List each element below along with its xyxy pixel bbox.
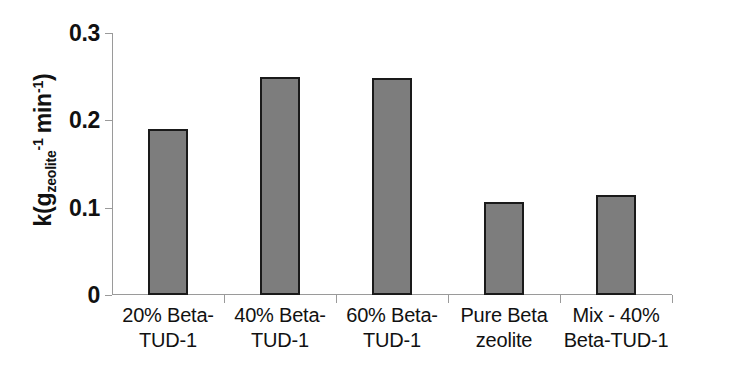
y-axis-tick-label: 0.1 xyxy=(69,194,100,221)
x-axis-category-label-line: 20% Beta- xyxy=(112,303,224,328)
x-axis-category-label: 40% Beta-TUD-1 xyxy=(224,303,336,375)
x-axis-category-label: Mix - 40%Beta-TUD-1 xyxy=(560,303,672,375)
bar xyxy=(148,129,188,295)
y-axis-tick xyxy=(105,33,112,34)
bar xyxy=(596,195,636,295)
y-axis-title-mid: min xyxy=(30,93,56,133)
y-axis-tick xyxy=(105,120,112,121)
x-axis-category-label-line: Pure Beta xyxy=(448,303,560,328)
y-axis-title-superscript-1: -1 xyxy=(30,138,46,150)
x-axis-category-label-line: 40% Beta- xyxy=(224,303,336,328)
bar xyxy=(372,78,412,295)
y-axis-line xyxy=(112,33,113,295)
x-axis-tick xyxy=(448,295,449,303)
y-axis-title-lead: k(g xyxy=(30,193,56,227)
x-axis-tick xyxy=(672,295,673,303)
y-axis-title-superscript-2: -1 xyxy=(30,81,46,93)
y-axis-title-subscript: zeolite xyxy=(42,150,58,192)
plot-area: 00.10.20.3 xyxy=(112,33,672,295)
x-axis-category-label: 20% Beta-TUD-1 xyxy=(112,303,224,375)
x-axis-tick xyxy=(224,295,225,303)
x-axis-category-label-line: Beta-TUD-1 xyxy=(560,328,672,353)
x-axis-category-label-line: 60% Beta- xyxy=(336,303,448,328)
y-axis-tick-label: 0 xyxy=(88,282,101,309)
y-axis-title-tail: ) xyxy=(30,74,56,81)
x-axis-category-label: Pure Betazeolite xyxy=(448,303,560,375)
y-axis-title: k(gzeolite-1min-1) xyxy=(22,0,66,300)
y-axis-tick xyxy=(105,295,112,296)
y-axis-title-text: k(gzeolite-1min-1) xyxy=(30,74,59,227)
bar-chart-figure: k(gzeolite-1min-1) 00.10.20.3 20% Beta-T… xyxy=(0,0,729,384)
x-axis-category-label-line: Mix - 40% xyxy=(560,303,672,328)
x-axis-tick xyxy=(560,295,561,303)
x-axis-category-label-line: TUD-1 xyxy=(224,328,336,353)
x-axis-category-labels: 20% Beta-TUD-140% Beta-TUD-160% Beta-TUD… xyxy=(112,303,672,375)
y-axis-tick-label: 0.3 xyxy=(69,20,100,47)
y-axis-tick-label: 0.2 xyxy=(69,107,100,134)
x-axis-category-label: 60% Beta-TUD-1 xyxy=(336,303,448,375)
x-axis-category-label-line: TUD-1 xyxy=(336,328,448,353)
x-axis-category-label-line: TUD-1 xyxy=(112,328,224,353)
x-axis-category-label-line: zeolite xyxy=(448,328,560,353)
bar xyxy=(260,77,300,295)
bar xyxy=(484,202,524,295)
x-axis-tick xyxy=(336,295,337,303)
y-axis-tick xyxy=(105,208,112,209)
